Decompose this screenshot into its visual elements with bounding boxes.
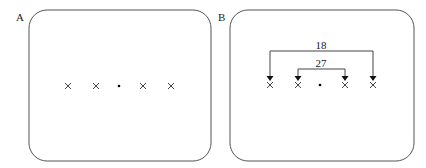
- cross-icon: [267, 82, 376, 88]
- panel-a: [29, 10, 211, 161]
- arrowhead-icon: [267, 76, 377, 81]
- fixation-dot: [319, 84, 322, 87]
- bracket-inner: [298, 69, 345, 77]
- panel-a-label: A: [16, 11, 24, 23]
- fixation-dot: [118, 85, 121, 88]
- bracket-outer-label: 18: [316, 39, 327, 51]
- bracket-inner-label: 27: [316, 57, 327, 69]
- panel-b: [230, 10, 414, 161]
- diagram-canvas: [0, 0, 426, 168]
- panel-b-label: B: [218, 11, 225, 23]
